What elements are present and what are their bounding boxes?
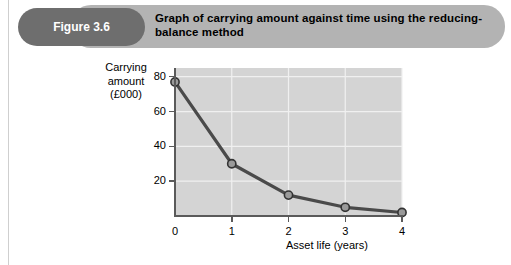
x-tick-label: 4 bbox=[390, 225, 414, 237]
data-point-marker bbox=[228, 160, 236, 168]
x-tick-mark bbox=[231, 216, 233, 222]
data-point-marker bbox=[341, 203, 349, 211]
line-chart: 20406080 01234 Carryingamount(£000) Asse… bbox=[0, 48, 511, 265]
x-tick-mark bbox=[345, 216, 347, 222]
figure-number-label: Figure 3.6 bbox=[18, 8, 145, 46]
x-tick-mark bbox=[401, 216, 403, 222]
x-tick-label: 1 bbox=[220, 225, 244, 237]
x-tick-mark bbox=[288, 216, 290, 222]
y-axis-title-line-2: (£000) bbox=[88, 88, 164, 102]
x-axis-title: Asset life (years) bbox=[286, 239, 446, 251]
x-tick-label: 3 bbox=[333, 225, 357, 237]
figure-number-badge: Figure 3.6 bbox=[18, 8, 145, 46]
y-tick-label: 40 bbox=[142, 139, 166, 151]
y-tick-mark bbox=[169, 146, 175, 148]
y-axis-title-line-0: Carrying bbox=[88, 61, 164, 75]
y-tick-mark bbox=[169, 111, 175, 113]
figure-title: Graph of carrying amount against time us… bbox=[155, 11, 495, 39]
y-axis-title: Carryingamount(£000) bbox=[88, 61, 164, 102]
x-tick-label: 2 bbox=[277, 225, 301, 237]
y-tick-label: 60 bbox=[142, 105, 166, 117]
chart-svg bbox=[0, 48, 511, 265]
x-tick-label: 0 bbox=[163, 225, 187, 237]
y-tick-label: 20 bbox=[142, 174, 166, 186]
data-point-marker bbox=[284, 191, 292, 199]
figure-page: Graph of carrying amount against time us… bbox=[0, 0, 511, 265]
y-axis-title-line-1: amount bbox=[88, 75, 164, 89]
y-axis-line bbox=[174, 68, 176, 216]
y-tick-mark bbox=[169, 76, 175, 78]
y-tick-mark bbox=[169, 180, 175, 182]
